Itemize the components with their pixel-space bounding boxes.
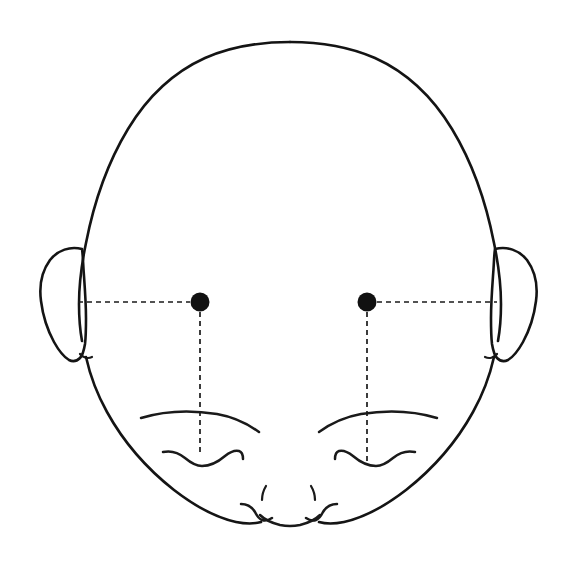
left-landmark-point[interactable]: [191, 293, 210, 312]
head-landmark-diagram: [0, 0, 577, 570]
anatomical-figure: Infant head front view with bilateral la…: [0, 0, 577, 570]
figure-background: [0, 0, 577, 570]
right-landmark-point[interactable]: [358, 293, 377, 312]
